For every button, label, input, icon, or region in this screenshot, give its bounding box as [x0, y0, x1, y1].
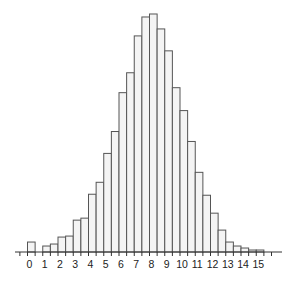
x-tick-label: 9	[164, 258, 170, 270]
histogram-bar	[96, 182, 104, 252]
histogram-bar	[218, 230, 226, 252]
x-axis-tick-labels: 0123456789101112131415	[27, 258, 265, 270]
histogram-bar	[172, 88, 180, 252]
histogram-bar	[89, 194, 97, 252]
x-tick-label: 3	[72, 258, 78, 270]
histogram-bar	[104, 153, 112, 252]
histogram-bar	[233, 246, 241, 252]
histogram-bar	[134, 36, 142, 252]
histogram-bar	[119, 93, 127, 252]
x-tick-label: 8	[149, 258, 155, 270]
histogram-bar	[180, 111, 188, 252]
histogram-bar	[203, 195, 211, 252]
histogram-bar	[150, 14, 158, 252]
x-tick-label: 5	[103, 258, 109, 270]
histogram-bar	[142, 17, 150, 252]
x-tick-label: 2	[57, 258, 63, 270]
histogram-bar	[241, 248, 249, 252]
histogram-bar	[211, 213, 219, 252]
x-tick-label: 12	[207, 258, 219, 270]
histogram-bar	[226, 242, 234, 252]
x-tick-label: 15	[252, 258, 264, 270]
histogram-bar	[195, 172, 203, 252]
x-tick-label: 4	[88, 258, 94, 270]
x-tick-label: 1	[42, 258, 48, 270]
histogram-bar	[28, 242, 36, 252]
histogram-bars	[28, 14, 264, 252]
x-tick-label: 10	[176, 258, 188, 270]
histogram-bar	[43, 246, 51, 252]
histogram-bar	[157, 29, 165, 252]
histogram-bar	[165, 51, 173, 252]
histogram-bar	[66, 236, 74, 252]
histogram-chart: 0123456789101112131415	[0, 0, 295, 285]
x-tick-label: 11	[192, 258, 203, 270]
histogram-bar	[50, 244, 58, 252]
x-tick-label: 6	[118, 258, 124, 270]
histogram-bar	[127, 73, 135, 252]
x-tick-label: 14	[237, 258, 249, 270]
x-tick-label: 0	[27, 258, 33, 270]
histogram-bar	[111, 132, 119, 252]
histogram-bar	[188, 141, 196, 252]
x-axis-ticks	[20, 252, 272, 256]
histogram-bar	[58, 237, 66, 252]
x-tick-label: 7	[133, 258, 139, 270]
x-tick-label: 13	[222, 258, 234, 270]
histogram-bar	[81, 218, 89, 252]
histogram-bar	[73, 220, 81, 252]
